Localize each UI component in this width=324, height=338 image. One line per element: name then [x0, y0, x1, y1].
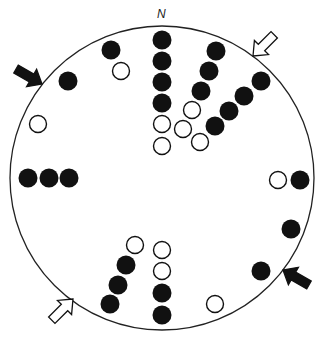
arrow-northeast-open-icon — [246, 28, 281, 63]
filled-dot — [117, 256, 136, 275]
open-dot — [207, 296, 224, 313]
open-dot — [30, 116, 47, 133]
open-dot — [154, 263, 171, 280]
filled-dot — [19, 169, 38, 188]
filled-dot — [102, 41, 121, 60]
open-dot — [154, 116, 171, 133]
filled-dot — [291, 171, 310, 190]
filled-dot — [192, 82, 211, 101]
arrow-southeast-filled-icon — [278, 261, 314, 293]
filled-dot — [282, 220, 301, 239]
open-dot — [113, 63, 130, 80]
filled-dot — [252, 262, 271, 281]
open-dot — [154, 242, 171, 259]
filled-dot — [235, 87, 254, 106]
open-dot — [192, 134, 209, 151]
filled-dot — [153, 73, 172, 92]
arrow-southwest-open-icon — [45, 292, 80, 327]
filled-dot — [153, 306, 172, 325]
filled-dot — [153, 94, 172, 113]
filled-dot — [206, 117, 225, 136]
open-dot — [175, 121, 192, 138]
filled-dot — [109, 276, 128, 295]
filled-dot — [200, 62, 219, 81]
open-dot — [270, 172, 287, 189]
circular-diagram — [0, 0, 324, 338]
filled-dot — [207, 42, 226, 61]
filled-dot — [59, 72, 78, 91]
arrow-northwest-filled-icon — [11, 60, 47, 92]
open-dot — [184, 102, 201, 119]
open-dot — [154, 138, 171, 155]
filled-dot — [153, 284, 172, 303]
filled-dot — [220, 102, 239, 121]
diagram-stage: N — [0, 0, 324, 338]
filled-dot — [60, 169, 79, 188]
filled-dot — [40, 169, 59, 188]
filled-dot — [153, 31, 172, 50]
filled-dot — [153, 52, 172, 71]
open-dot — [127, 237, 144, 254]
filled-dot — [101, 295, 120, 314]
filled-dot — [252, 72, 271, 91]
